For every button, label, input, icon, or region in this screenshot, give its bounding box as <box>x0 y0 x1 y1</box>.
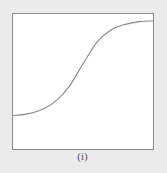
plot-frame <box>13 14 154 150</box>
figure-caption: (i) <box>0 150 165 162</box>
figure-canvas <box>0 0 167 173</box>
